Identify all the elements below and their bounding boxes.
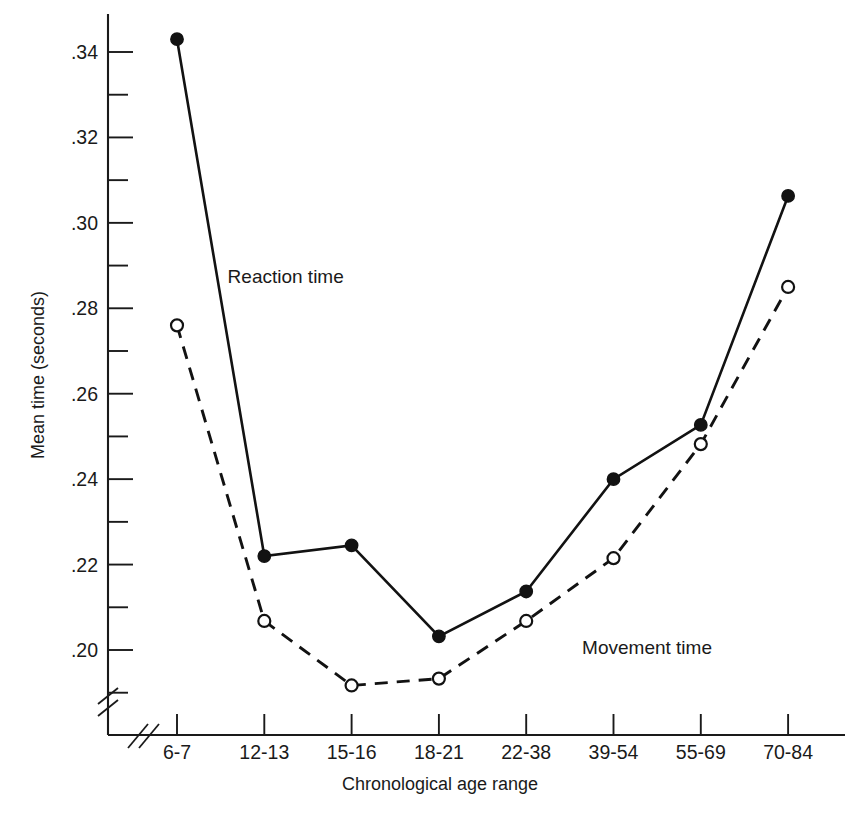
data-point-marker (608, 552, 620, 564)
x-tick-label: 39-54 (589, 741, 639, 763)
y-tick-label: .28 (71, 297, 98, 319)
data-series-layer (171, 33, 795, 691)
y-axis-group: .34.32.30.28.26.24.22.20 (71, 14, 133, 735)
data-point-marker (433, 630, 445, 642)
x-axis-title: Chronological age range (342, 774, 538, 794)
x-axis-group: 6-712-1315-1618-2122-3839-5455-6970-84 (108, 714, 845, 763)
x-tick-label: 22-38 (501, 741, 551, 763)
data-point-marker (607, 473, 619, 485)
data-point-marker (520, 585, 532, 597)
x-tick-label: 70-84 (763, 741, 813, 763)
y-tick-label: .30 (71, 212, 98, 234)
y-tick-label: .26 (71, 383, 98, 405)
y-tick-label: .20 (71, 639, 98, 661)
y-tick-label: .34 (71, 41, 98, 63)
y-tick-labels: .34.32.30.28.26.24.22.20 (71, 41, 98, 661)
series-line-1 (177, 39, 788, 636)
x-tick-marks (177, 714, 788, 735)
data-point-marker (258, 550, 270, 562)
x-tick-label: 55-69 (676, 741, 726, 763)
y-tick-label: .22 (71, 554, 98, 576)
y-tick-marks (108, 52, 133, 693)
data-point-marker (258, 615, 270, 627)
data-point-marker (346, 679, 358, 691)
y-tick-label: .24 (71, 468, 98, 490)
data-point-marker (695, 419, 707, 431)
y-axis-title: Mean time (seconds) (28, 291, 48, 459)
x-tick-label: 12-13 (239, 741, 289, 763)
data-point-marker (433, 673, 445, 685)
data-point-marker (345, 539, 357, 551)
series-label-2: Movement time (582, 637, 712, 658)
x-tick-label: 15-16 (327, 741, 377, 763)
data-point-marker (171, 33, 183, 45)
data-point-marker (520, 615, 532, 627)
y-tick-label: .32 (71, 126, 98, 148)
data-point-marker (171, 319, 183, 331)
x-tick-label: 6-7 (163, 741, 191, 763)
data-point-marker (782, 190, 794, 202)
data-point-marker (695, 438, 707, 450)
series-label-1: Reaction time (228, 266, 344, 287)
x-tick-labels: 6-712-1315-1618-2122-3839-5455-6970-84 (163, 741, 813, 763)
x-tick-label: 18-21 (414, 741, 464, 763)
chart-figure: .34.32.30.28.26.24.22.20 6-712-1315-1618… (0, 0, 845, 816)
data-point-marker (782, 281, 794, 293)
line-chart-svg: .34.32.30.28.26.24.22.20 6-712-1315-1618… (0, 0, 845, 816)
